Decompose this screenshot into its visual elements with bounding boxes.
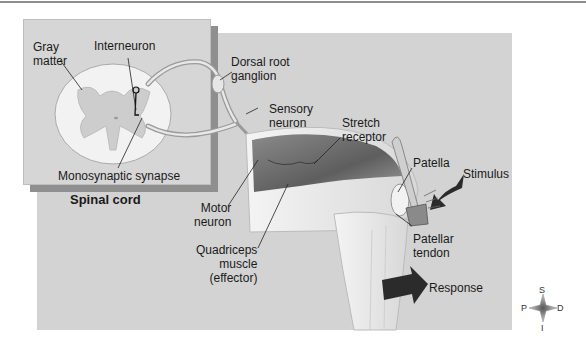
lower-leg	[334, 212, 408, 330]
label-motor-neuron: Motorneuron	[194, 201, 231, 229]
label-dorsal-root-ganglion: Dorsal rootganglion	[231, 55, 290, 83]
label-response: Response	[429, 281, 483, 295]
stimulus-arrow	[430, 174, 464, 210]
label-stretch-receptor: Stretchreceptor	[342, 116, 386, 144]
label-monosynaptic-synapse: Monosynaptic synapse	[58, 169, 180, 183]
compass-distal: D	[557, 303, 564, 313]
label-stimulus: Stimulus	[463, 167, 509, 181]
label-spinal-cord: Spinal cord	[70, 193, 141, 207]
compass-proximal: P	[521, 303, 527, 313]
label-quadriceps-muscle: Quadricepsmuscle(effector)	[196, 243, 257, 285]
label-patellar-tendon: Patellartendon	[413, 232, 454, 260]
label-sensory-neuron: Sensoryneuron	[269, 102, 313, 130]
label-gray-matter: Graymatter	[33, 40, 67, 68]
label-patella: Patella	[413, 156, 450, 170]
compass-superior: S	[539, 285, 545, 295]
dorsal-root-ganglion-shape	[212, 75, 224, 93]
compass-rose	[529, 294, 557, 322]
compass-inferior: I	[541, 323, 544, 333]
label-interneuron: Interneuron	[94, 39, 155, 53]
